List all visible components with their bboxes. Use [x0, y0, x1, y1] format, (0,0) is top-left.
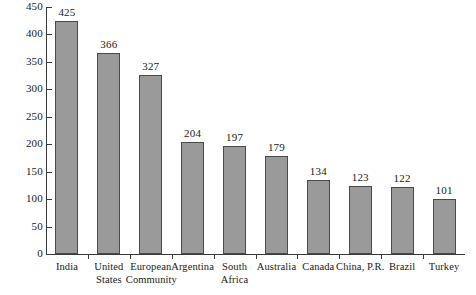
bar [139, 75, 162, 254]
y-axis-tick: 0 [0, 254, 52, 255]
y-axis-tick-label: 100 [26, 191, 43, 205]
y-axis-tick: 400 [0, 34, 52, 35]
y-axis-line [46, 7, 47, 255]
y-axis-tick-mark [47, 254, 52, 255]
y-axis-tick-label: 350 [26, 54, 43, 68]
x-axis-tick-mark [214, 254, 215, 259]
y-axis-tick: 50 [0, 227, 52, 228]
bar [433, 199, 456, 254]
category-label: Turkey [419, 261, 469, 274]
y-axis-tick-mark [47, 34, 52, 35]
y-axis-tick-label: 150 [26, 164, 43, 178]
bar [307, 180, 330, 254]
x-axis-tick-mark [297, 254, 298, 259]
y-axis-tick-label: 400 [26, 26, 43, 40]
y-axis-tick-label: 450 [26, 0, 43, 13]
y-axis-tick-label: 200 [26, 136, 43, 150]
y-axis-tick-label: 250 [26, 109, 43, 123]
y-axis-tick: 150 [0, 172, 52, 173]
bar [223, 146, 246, 254]
x-axis-tick-mark [130, 254, 131, 259]
x-axis-tick-mark [172, 254, 173, 259]
y-axis-tick-mark [47, 172, 52, 173]
y-axis-tick-mark [47, 227, 52, 228]
y-axis-tick-mark [47, 117, 52, 118]
y-axis-tick: 250 [0, 117, 52, 118]
y-axis-tick-mark [47, 62, 52, 63]
x-axis-tick-mark [256, 254, 257, 259]
bar-value-label: 197 [214, 131, 256, 143]
x-axis-tick-mark [381, 254, 382, 259]
bar-value-label: 327 [130, 60, 172, 72]
y-axis-tick: 350 [0, 62, 52, 63]
bar-value-label: 101 [423, 184, 465, 196]
x-axis-tick-mark [88, 254, 89, 259]
bar-value-label: 366 [88, 38, 130, 50]
y-axis-tick: 100 [0, 199, 52, 200]
bar-value-label: 134 [297, 165, 339, 177]
bar [97, 53, 120, 254]
bar [181, 142, 204, 254]
x-axis-tick-mark [339, 254, 340, 259]
bar [55, 21, 78, 254]
y-axis-tick-mark [47, 144, 52, 145]
y-axis-tick-label: 50 [32, 219, 43, 233]
bar-value-label: 204 [172, 127, 214, 139]
bar-value-label: 123 [339, 171, 381, 183]
bar-chart: 050100150200250300350400450 425366327204… [0, 0, 476, 295]
y-axis-tick-label: 300 [26, 81, 43, 95]
bar-value-label: 122 [381, 172, 423, 184]
y-axis-tick: 300 [0, 89, 52, 90]
bar [349, 186, 372, 254]
y-axis-tick-mark [47, 89, 52, 90]
y-axis-tick: 200 [0, 144, 52, 145]
x-axis-tick-mark [423, 254, 424, 259]
y-axis-tick-mark [47, 199, 52, 200]
y-axis-tick: 450 [0, 7, 52, 8]
bar-value-label: 425 [46, 6, 88, 18]
bar [391, 187, 414, 254]
bar-value-label: 179 [256, 141, 298, 153]
y-axis-tick-label: 0 [37, 246, 43, 260]
bar [265, 156, 288, 254]
